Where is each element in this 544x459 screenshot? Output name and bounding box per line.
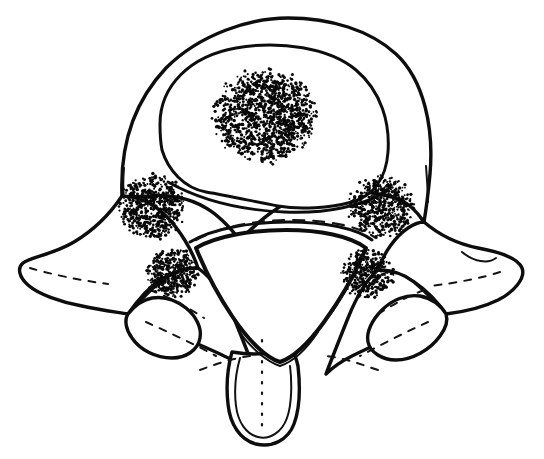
vertebral-body-left-edge-line <box>123 168 124 198</box>
vertebra-illustration: Transverse section of a vertebra (axial … <box>0 0 544 459</box>
vertebra-figure: Transverse section of a vertebra (axial … <box>0 0 544 459</box>
